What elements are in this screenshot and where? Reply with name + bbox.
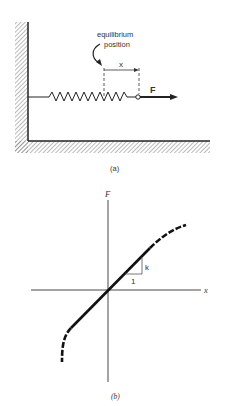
equilibrium-annotation-line2: position <box>104 40 130 49</box>
force-arrow-head <box>170 94 178 100</box>
displacement-arrow-head <box>134 68 139 72</box>
caption-a: (a) <box>110 164 120 173</box>
spring <box>28 92 136 101</box>
spring-system-diagram: F x equilibrium position (a) <box>15 22 210 173</box>
force-label: F <box>150 85 156 95</box>
caption-b: (b) <box>111 392 120 401</box>
floor-hatching <box>15 141 210 153</box>
upper-nonlinear-curve <box>150 225 186 248</box>
y-axis-label: F <box>104 189 111 199</box>
figure-canvas: F x equilibrium position (a) F x k 1 (b) <box>0 0 226 406</box>
lower-nonlinear-curve <box>62 328 71 362</box>
displacement-label: x <box>119 60 123 69</box>
force-displacement-graph: F x k 1 (b) <box>31 189 208 401</box>
run-label: 1 <box>131 277 136 286</box>
annotation-pointer-head <box>96 59 102 66</box>
wall-hatching <box>15 22 28 153</box>
slope-label: k <box>145 263 150 272</box>
x-axis-label: x <box>203 285 208 295</box>
linear-region-line <box>71 248 150 328</box>
equilibrium-annotation-line1: equilibrium <box>97 30 133 39</box>
mass-point <box>136 95 140 99</box>
